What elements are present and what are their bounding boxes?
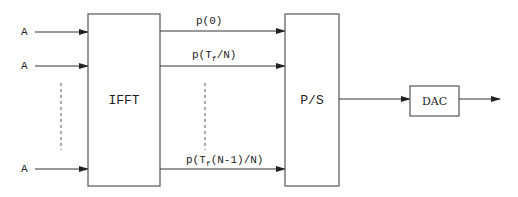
output-label-N: p(Tf(N-1)/N) <box>186 154 263 168</box>
input-label-2: A <box>21 60 28 72</box>
ofdm-transmitter-diagram: A A A IFFT p(0) p(Tf/N) p(Tf(N-1)/N) P/S… <box>0 0 518 197</box>
ps-label: P/S <box>300 93 324 108</box>
ifft-block: IFFT <box>88 14 160 186</box>
output-label-2: p(Tf/N) <box>192 49 236 63</box>
dac-label: DAC <box>422 95 447 108</box>
input-label-1: A <box>21 26 28 38</box>
dac-block: DAC <box>410 86 459 116</box>
input-label-N: A <box>21 163 28 175</box>
output-label-1: p(0) <box>196 15 222 27</box>
parallel-to-serial-block: P/S <box>285 14 339 186</box>
ifft-label: IFFT <box>108 93 139 108</box>
